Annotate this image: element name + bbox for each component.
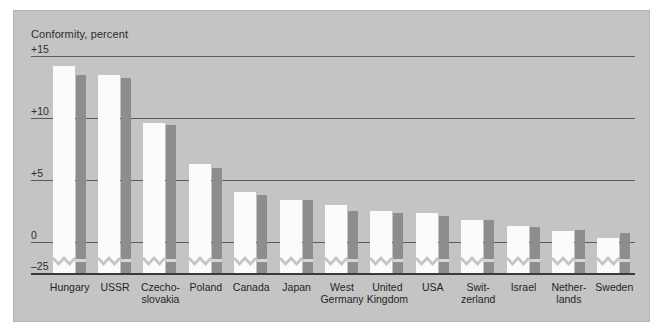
bar-light-2 bbox=[143, 123, 165, 273]
axis-break-zigzag bbox=[597, 253, 619, 265]
axis-break-gap bbox=[530, 259, 540, 262]
x-axis-label-7: United Kingdom bbox=[362, 281, 413, 305]
bar-light-0 bbox=[53, 66, 75, 273]
axis-break-gap bbox=[348, 259, 358, 262]
bar-dark-1 bbox=[121, 78, 131, 273]
axis-break-zigzag bbox=[416, 253, 438, 265]
x-axis-label-1: USSR bbox=[89, 281, 140, 293]
x-axis-label-2: Czecho- slovakia bbox=[135, 281, 186, 305]
axis-break-gap bbox=[212, 259, 222, 262]
plot-area: Conformity, percent +15+10+50–25 Hungary… bbox=[0, 0, 662, 335]
bar-light-1 bbox=[98, 75, 120, 273]
x-axis-label-10: Israel bbox=[498, 281, 549, 293]
axis-break-gap bbox=[620, 259, 630, 262]
axis-break-gap bbox=[303, 259, 313, 262]
axis-break-zigzag bbox=[325, 253, 347, 265]
axis-break-zigzag bbox=[280, 253, 302, 265]
axis-break-zigzag bbox=[370, 253, 392, 265]
axis-break-zigzag bbox=[461, 253, 483, 265]
axis-break-zigzag bbox=[234, 253, 256, 265]
bar-dark-8 bbox=[439, 216, 449, 273]
axis-break-gap bbox=[484, 259, 494, 262]
axis-break-zigzag bbox=[53, 253, 75, 265]
x-axis-label-3: Poland bbox=[180, 281, 231, 293]
axis-break-zigzag bbox=[98, 253, 120, 265]
bar-dark-5 bbox=[303, 200, 313, 273]
x-axis-label-8: USA bbox=[407, 281, 458, 293]
axis-break-gap bbox=[439, 259, 449, 262]
bar-dark-12 bbox=[620, 233, 630, 273]
bar-dark-9 bbox=[484, 220, 494, 273]
x-axis-label-9: Swit- zerland bbox=[452, 281, 503, 305]
axis-break-gap bbox=[257, 259, 267, 262]
axis-break-gap bbox=[575, 259, 585, 262]
bar-dark-2 bbox=[166, 125, 176, 273]
x-axis-label-4: Canada bbox=[226, 281, 277, 293]
axis-break-zigzag bbox=[189, 253, 211, 265]
x-axis-label-11: Nether- lands bbox=[543, 281, 594, 305]
axis-break-gap bbox=[166, 259, 176, 262]
x-axis-label-5: Japan bbox=[271, 281, 322, 293]
bar-dark-7 bbox=[393, 213, 403, 273]
bar-dark-11 bbox=[575, 230, 585, 273]
bar-dark-3 bbox=[212, 168, 222, 273]
bar-dark-6 bbox=[348, 211, 358, 273]
axis-break-gap bbox=[121, 259, 131, 262]
figure-root: Conformity, percent +15+10+50–25 Hungary… bbox=[0, 0, 662, 335]
axis-break-gap bbox=[76, 259, 86, 262]
x-axis-label-0: Hungary bbox=[44, 281, 95, 293]
axis-break-zigzag bbox=[507, 253, 529, 265]
x-axis-label-6: West Germany bbox=[316, 281, 367, 305]
x-axis-label-12: Sweden bbox=[589, 281, 640, 293]
axis-break-zigzag bbox=[143, 253, 165, 265]
axis-break-gap bbox=[393, 259, 403, 262]
bar-dark-10 bbox=[530, 227, 540, 273]
bar-dark-0 bbox=[76, 75, 86, 273]
axis-break-zigzag bbox=[552, 253, 574, 265]
